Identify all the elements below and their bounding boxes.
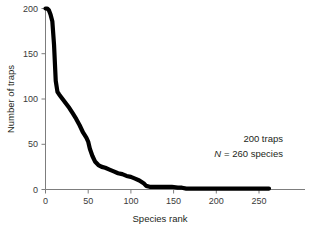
data-curve-line bbox=[46, 9, 270, 189]
x-tick-label-150: 150 bbox=[166, 196, 181, 206]
annotation-species: N= 260 species bbox=[214, 148, 283, 159]
annotation-traps: 200 traps bbox=[243, 133, 283, 144]
y-tick-label-100: 100 bbox=[23, 94, 38, 104]
x-axis-tick-labels: 0 50 100 150 200 250 bbox=[43, 196, 267, 206]
annotation-species-rest: = 260 species bbox=[224, 148, 283, 159]
chart-figure: 0 50 100 150 200 0 50 100 150 200 250 Sp… bbox=[0, 0, 309, 237]
y-axis-title: Number of traps bbox=[5, 65, 16, 133]
y-axis-ticks bbox=[42, 9, 46, 190]
x-tick-label-200: 200 bbox=[209, 196, 224, 206]
y-axis-tick-labels: 0 50 100 150 200 bbox=[23, 4, 38, 195]
x-tick-label-100: 100 bbox=[123, 196, 138, 206]
rank-abundance-chart: 0 50 100 150 200 0 50 100 150 200 250 Sp… bbox=[0, 0, 309, 237]
y-tick-label-200: 200 bbox=[23, 4, 38, 14]
y-tick-label-50: 50 bbox=[28, 139, 38, 149]
x-tick-label-250: 250 bbox=[251, 196, 266, 206]
annotation-n-symbol: N bbox=[214, 148, 221, 159]
x-tick-label-50: 50 bbox=[83, 196, 93, 206]
y-tick-label-150: 150 bbox=[23, 49, 38, 59]
x-axis-title: Species rank bbox=[133, 213, 188, 224]
y-tick-label-0: 0 bbox=[33, 185, 38, 195]
x-tick-label-0: 0 bbox=[43, 196, 48, 206]
